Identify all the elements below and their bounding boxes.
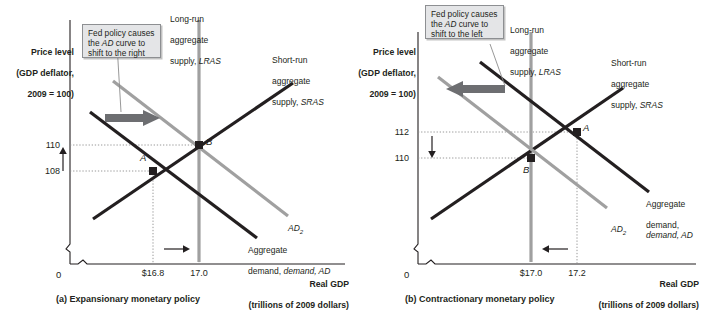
x-tick-17-0: 17.0 <box>182 268 216 278</box>
callout-line-1: Fed policy causes <box>431 9 499 19</box>
callout-shift-right: Fed policy causes the AD curve to shift … <box>82 24 161 58</box>
callout-line-3: shift to the right <box>88 48 156 58</box>
sras-label: Short-run aggregate supply, SRAS <box>272 44 324 118</box>
y-axis-break <box>414 236 418 264</box>
x-title-line-1: Real GDP <box>565 279 699 290</box>
ad-as-monetary-policy-figure: Price level (GDP deflator, 2009 = 100) F… <box>0 0 705 311</box>
y-title-line-3: 2009 = 100) <box>2 89 74 100</box>
real-gdp-change-arrow-left <box>542 245 568 253</box>
panel-a-caption: (a) Expansionary monetary policy <box>56 294 200 304</box>
y-title-line-3: 2009 = 100) <box>349 89 416 100</box>
ad1-label-line-2: demand, demand, AD <box>646 220 705 241</box>
y-title-line-2: (GDP deflator, <box>2 68 74 79</box>
lras-label-line-3: supply, LRAS <box>170 56 221 67</box>
x-title-line-1: Real GDP <box>215 279 349 290</box>
ad-shift-arrow-left <box>446 81 505 97</box>
lras-label: Long-run aggregate supply, LRAS <box>170 3 221 77</box>
point-label-b: B <box>523 164 529 175</box>
point-label-b: B <box>206 136 212 147</box>
panel-expansionary-monetary-policy: Price level (GDP deflator, 2009 = 100) F… <box>0 0 352 311</box>
sras-label-line-2: aggregate <box>611 79 663 90</box>
equilibrium-point-a <box>149 167 157 175</box>
panel-a-y-axis-title: Price level (GDP deflator, 2009 = 100) <box>2 36 74 110</box>
point-label-a: A <box>583 122 589 133</box>
real-gdp-change-arrow-right <box>164 245 190 253</box>
panel-b-guide-lines <box>418 132 577 264</box>
y-tick-110: 110 <box>377 153 409 163</box>
ad1-curve <box>90 112 257 238</box>
sras-label-line-3: supply, SRAS <box>272 97 324 108</box>
y-title-line-2: (GDP deflator, <box>349 68 416 79</box>
x-title-line-2: (trillions of 2009 dollars) <box>215 300 349 311</box>
lras-label-line-1: Long-run <box>510 25 561 36</box>
x-tick-17-0: $17.0 <box>509 268 553 278</box>
ad2-label: AD2 <box>288 212 303 237</box>
equilibrium-point-b <box>527 154 535 162</box>
lras-label-line-1: Long-run <box>170 14 221 25</box>
y-tick-108: 108 <box>28 166 60 176</box>
ad2-label: AD2 <box>611 213 626 238</box>
origin-label: 0 <box>56 269 61 280</box>
point-label-a: A <box>140 152 146 163</box>
lras-label: Long-run aggregate supply, LRAS <box>510 14 561 88</box>
y-title-line-1: Price level <box>349 47 416 58</box>
y-tick-110: 110 <box>28 140 60 150</box>
callout-line-2: the AD curve to <box>88 38 156 48</box>
ad2-label-text: AD <box>288 223 300 233</box>
callout-line-3: shift to the left <box>431 29 499 39</box>
equilibrium-point-b <box>195 141 203 149</box>
x-tick-16-8: $16.8 <box>131 268 175 278</box>
ad1-label-line-1: Aggregate <box>248 245 330 256</box>
y-axis-break <box>66 236 70 264</box>
panel-a-x-axis-title: Real GDP (trillions of 2009 dollars) <box>215 268 349 311</box>
equilibrium-point-a <box>573 128 581 136</box>
panel-b-caption: (b) Contractionary monetary policy <box>405 294 555 304</box>
panel-b-y-axis-title: Price level (GDP deflator, 2009 = 100) <box>349 36 416 110</box>
panel-b-x-axis-title: Real GDP (trillions of 2009 dollars) <box>565 268 699 311</box>
ad2-label-sub: 2 <box>623 228 626 235</box>
sras-label-line-1: Short-run <box>611 58 663 69</box>
sras-label: Short-run aggregate supply, SRAS <box>611 47 663 121</box>
ad1-label-ad: demand, AD <box>646 230 693 240</box>
lras-label-line-2: aggregate <box>510 46 561 57</box>
y-tick-112: 112 <box>377 127 409 137</box>
ad1-label-line-1: Aggregate <box>646 199 705 210</box>
x-title-line-2: (trillions of 2009 dollars) <box>565 300 699 311</box>
sras-label-line-3: supply, SRAS <box>611 100 663 111</box>
lras-label-line-2: aggregate <box>170 35 221 46</box>
price-level-change-arrow-up <box>59 147 67 171</box>
price-level-change-arrow-down <box>428 136 436 158</box>
callout-leader-line <box>490 44 505 86</box>
panel-a-guide-lines <box>70 145 199 264</box>
sras-label-line-2: aggregate <box>272 76 324 87</box>
panel-contractionary-monetary-policy: Price level (GDP deflator, 2009 = 100) F… <box>353 0 705 311</box>
ad1-label: Aggregate demand, demand, AD <box>646 188 705 251</box>
y-title-line-1: Price level <box>2 47 74 58</box>
callout-shift-left: Fed policy causes the AD curve to shift … <box>425 5 504 39</box>
origin-label: 0 <box>404 269 409 280</box>
callout-line-1: Fed policy causes <box>88 28 156 38</box>
sras-label-line-1: Short-run <box>272 55 324 66</box>
ad2-label-text: AD <box>611 224 623 234</box>
x-axis-line <box>418 260 696 264</box>
callout-line-2: the AD curve to <box>431 19 499 29</box>
lras-label-line-3: supply, LRAS <box>510 67 561 78</box>
